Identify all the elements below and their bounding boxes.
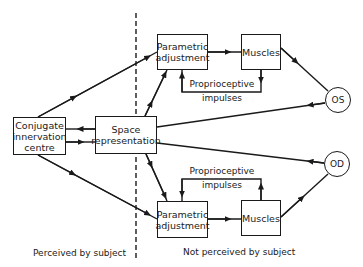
space-representation-box: Space representation [95,116,157,154]
node-label: adjustment [155,220,209,231]
parametric-adjustment-lower-box: Parametric adjustment [157,201,208,238]
feedback-label-lower: Proprioceptive impulses [180,166,264,191]
node-label: representation [91,135,161,146]
node-label: Parametric [155,209,209,220]
feedback-label-line: impulses [180,93,264,104]
parametric-adjustment-upper-box: Parametric adjustment [157,34,208,70]
region-label-not-perceived: Not perceived by subject [183,247,295,258]
feedback-label-upper: Proprioceptive impulses [180,79,264,104]
feedback-label-line: impulses [180,180,264,191]
region-label-perceived: Perceived by subject [33,248,126,259]
node-label: Parametric [155,41,209,52]
node-label: adjustment [155,52,209,63]
node-label: OS [332,95,345,105]
feedback-label-line: Proprioceptive [180,166,264,177]
node-label: OD [330,159,344,169]
node-label: Muscles [242,213,280,224]
node-label: Conjugate [12,120,66,131]
node-label: innervation [12,131,66,142]
node-label: centre [12,142,66,153]
muscles-lower-box: Muscles [241,200,281,236]
node-label: Muscles [242,47,280,58]
conjugate-innervation-centre-box: Conjugate innervation centre [13,117,66,155]
feedback-label-line: Proprioceptive [180,79,264,90]
node-label: Space [91,124,161,135]
od-eye-node: OD [324,151,350,177]
muscles-upper-box: Muscles [241,34,281,70]
os-eye-node: OS [325,87,351,113]
